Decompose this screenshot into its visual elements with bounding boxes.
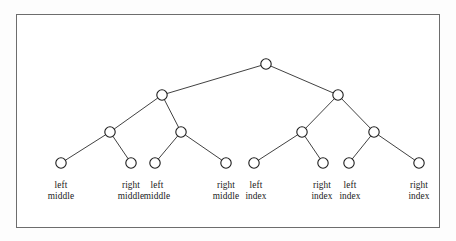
leaf-label-line2: middle xyxy=(213,191,239,202)
figure-root: leftmiddlerightmiddleleftmiddlerightmidd… xyxy=(0,0,456,241)
tree-leaf-node xyxy=(414,158,424,168)
tree-edge xyxy=(114,98,158,129)
leaf-label: leftindex xyxy=(245,180,266,201)
tree-leaf-node xyxy=(249,158,259,168)
leaf-label-line2: index xyxy=(245,191,266,202)
tree-edge xyxy=(352,136,370,159)
tree-leaf-node xyxy=(126,158,136,168)
tree-edge xyxy=(258,135,297,160)
leaf-label: rightmiddle xyxy=(118,180,144,201)
tree-edge-layer xyxy=(65,65,414,160)
tree-leaf-node xyxy=(318,158,328,168)
tree-edge xyxy=(113,136,128,158)
tree-node-layer xyxy=(56,59,424,168)
leaf-label-line2: index xyxy=(339,191,360,202)
tree-internal-node xyxy=(176,127,186,137)
tree-leaf-node xyxy=(221,158,231,168)
tree-edge xyxy=(305,136,320,158)
leaf-label-line1: right xyxy=(408,180,429,191)
leaf-label-line1: left xyxy=(48,180,74,191)
leaf-label-line2: middle xyxy=(48,191,74,202)
leaf-label-line1: right xyxy=(311,180,332,191)
tree-edge xyxy=(185,135,221,160)
tree-internal-node xyxy=(369,127,379,137)
leaf-label: rightindex xyxy=(408,180,429,201)
leaf-label: leftindex xyxy=(339,180,360,201)
tree-internal-node xyxy=(105,127,115,137)
tree-internal-node xyxy=(157,90,167,100)
leaf-label-line2: middle xyxy=(144,191,170,202)
tree-leaf-node xyxy=(56,158,66,168)
tree-edge xyxy=(271,66,333,93)
leaf-label-line1: left xyxy=(144,180,170,191)
leaf-label: leftmiddle xyxy=(144,180,170,201)
leaf-label-line1: left xyxy=(245,180,266,191)
leaf-label-line2: middle xyxy=(118,191,144,202)
tree-edge xyxy=(306,99,335,129)
leaf-label-line1: right xyxy=(118,180,144,191)
leaf-label-line1: right xyxy=(213,180,239,191)
tree-leaf-node xyxy=(150,158,160,168)
leaf-label: rightmiddle xyxy=(213,180,239,201)
tree-edge xyxy=(65,135,105,160)
tree-edge xyxy=(167,65,261,93)
leaf-label-line2: index xyxy=(408,191,429,202)
tree-edge xyxy=(164,100,178,128)
tree-internal-node xyxy=(333,90,343,100)
binary-tree-graphic xyxy=(0,0,456,241)
tree-edge xyxy=(158,136,177,159)
leaf-label-line1: left xyxy=(339,180,360,191)
tree-edge xyxy=(378,135,414,160)
tree-internal-node xyxy=(261,59,271,69)
leaf-label: leftmiddle xyxy=(48,180,74,201)
leaf-label: rightindex xyxy=(311,180,332,201)
leaf-label-line2: index xyxy=(311,191,332,202)
tree-leaf-node xyxy=(344,158,354,168)
tree-edge xyxy=(342,99,371,129)
tree-internal-node xyxy=(297,127,307,137)
